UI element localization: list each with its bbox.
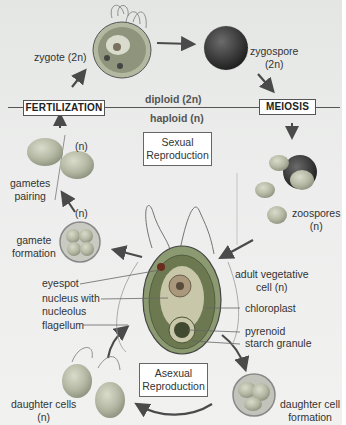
zoospores-label: zoospores (n) bbox=[292, 207, 340, 232]
asexual-reproduction-box: Asexual Reproduction bbox=[139, 363, 208, 397]
flagellum-label: flagellum bbox=[42, 319, 84, 332]
meiosis-box: MEIOSIS bbox=[259, 99, 316, 115]
zygote-label: zygote (2n) bbox=[34, 51, 87, 64]
arrow-adult-to-daughter-formation bbox=[222, 335, 245, 368]
gametes-pairing-label: gametes pairing bbox=[10, 177, 50, 202]
reproduction-label: Reproduction bbox=[140, 380, 207, 393]
sexual-reproduction-box: Sexual Reproduction bbox=[143, 132, 212, 166]
arrow-zygospore-to-meiosis bbox=[258, 74, 272, 90]
eyespot-label: eyespot bbox=[42, 277, 79, 290]
zygospore-illustration bbox=[204, 26, 248, 70]
arrow-daughter-formation-to-cells bbox=[138, 404, 212, 415]
adult-cell-illustration bbox=[117, 205, 239, 354]
daughter-cell-formation-label: daughter cell formation bbox=[280, 398, 340, 423]
pyrenoid-label: pyrenoid bbox=[245, 325, 285, 338]
daughter-cells-label: daughter cells (n) bbox=[11, 398, 76, 423]
asexual-label: Asexual bbox=[140, 367, 207, 380]
gamete-formation-ploidy: (n) bbox=[75, 207, 88, 220]
starch-granule-label: starch granule bbox=[245, 337, 312, 350]
arrow-zoospores-to-adult bbox=[222, 240, 253, 257]
haploid-label: haploid (n) bbox=[150, 112, 204, 124]
nucleus-label: nucleus with nucleolus bbox=[42, 292, 100, 317]
gametes-pairing-ploidy: (n) bbox=[75, 140, 88, 153]
sexual-label: Sexual bbox=[144, 136, 211, 149]
diploid-label: diploid (2n) bbox=[145, 93, 202, 105]
arrow-zygote-to-zygospore bbox=[157, 43, 192, 44]
arrow-fertilization-to-zygote bbox=[72, 72, 84, 87]
chloroplast-label: chloroplast bbox=[245, 302, 296, 315]
zygote-illustration bbox=[93, 5, 151, 78]
daughter-cell-formation-illustration bbox=[233, 374, 275, 416]
chlamydomonas-life-cycle-diagram: diploid (2n) haploid (n) FERTILIZATION M… bbox=[0, 0, 346, 425]
gamete-formation-label: gamete formation bbox=[12, 234, 56, 259]
gamete-formation-illustration bbox=[60, 222, 100, 262]
reproduction-label: Reproduction bbox=[144, 149, 211, 162]
fertilization-box: FERTILIZATION bbox=[23, 100, 105, 116]
adult-vegetative-cell-label: adult vegetative cell (n) bbox=[235, 268, 309, 293]
zygospore-label: zygospore (2n) bbox=[250, 45, 298, 70]
arrow-adult-to-gamete-formation bbox=[115, 250, 142, 257]
arrow-gamete-formation-to-pairing bbox=[63, 194, 75, 212]
